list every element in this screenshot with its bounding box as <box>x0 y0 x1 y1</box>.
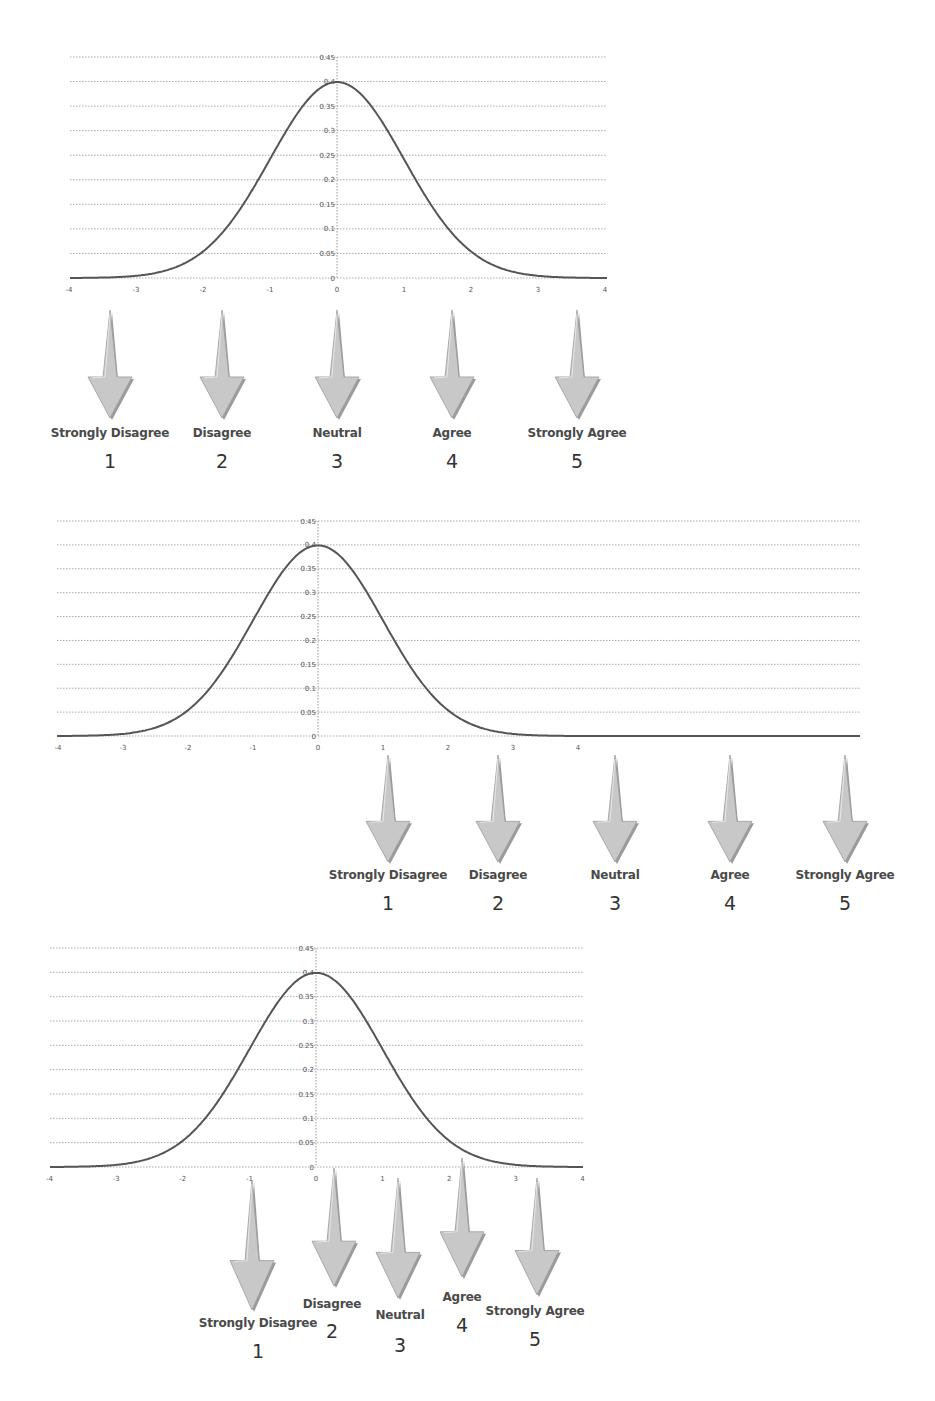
x-tick-label: 2 <box>447 1175 451 1183</box>
x-tick-label: 1 <box>380 1175 384 1183</box>
y-tick-label: 0.05 <box>300 709 316 717</box>
x-tick-label: 2 <box>446 744 450 752</box>
scale-value: 1 <box>252 1340 264 1362</box>
down-arrow-icon <box>476 755 522 864</box>
scale-value: 5 <box>529 1328 541 1350</box>
down-arrow-icon <box>708 755 754 864</box>
y-tick-label: 0.2 <box>305 637 316 645</box>
x-tick-label: 3 <box>514 1175 518 1183</box>
x-tick-label: 1 <box>402 286 406 294</box>
scale-label: Strongly Agree <box>527 426 626 440</box>
x-tick-label: -2 <box>185 744 192 752</box>
y-tick-label: 0.45 <box>298 945 314 953</box>
y-tick-label: 0.2 <box>303 1066 314 1074</box>
x-tick-label: 4 <box>576 744 581 752</box>
down-arrow-icon <box>88 310 134 420</box>
scale-value: 4 <box>724 892 736 914</box>
scale-value: 1 <box>382 892 394 914</box>
x-tick-label: 2 <box>469 286 473 294</box>
down-arrow-icon <box>200 310 246 420</box>
y-tick-label: 0.15 <box>298 1091 314 1099</box>
y-tick-label: 0.25 <box>319 152 335 160</box>
x-tick-label: 0 <box>335 286 339 294</box>
y-tick-label: 0.25 <box>298 1042 314 1050</box>
scale-label: Strongly Disagree <box>51 426 170 440</box>
y-tick-label: 0.25 <box>300 613 316 621</box>
x-tick-label: 3 <box>536 286 540 294</box>
scale-value: 4 <box>446 450 458 472</box>
x-tick-label: -4 <box>66 286 74 294</box>
x-tick-label: -3 <box>133 286 140 294</box>
scale-label: Agree <box>442 1290 481 1304</box>
scale-label: Agree <box>710 868 749 882</box>
scale-label: Strongly Disagree <box>329 868 448 882</box>
y-tick-label: 0.3 <box>303 1018 314 1026</box>
y-tick-label: 0.15 <box>300 661 316 669</box>
scale-label: Strongly Agree <box>795 868 894 882</box>
down-arrow-icon <box>593 755 639 864</box>
down-arrow-icon <box>515 1178 561 1297</box>
y-tick-label: 0.1 <box>303 1115 314 1123</box>
scale-label: Agree <box>432 426 471 440</box>
x-tick-label: -1 <box>267 286 274 294</box>
y-tick-label: 0.35 <box>300 565 316 573</box>
x-tick-label: 1 <box>381 744 385 752</box>
down-arrow-icon <box>555 310 601 420</box>
down-arrow-icon <box>376 1178 422 1300</box>
y-tick-label: 0.1 <box>305 685 316 693</box>
y-tick-label: 0.2 <box>324 176 335 184</box>
x-tick-label: 0 <box>314 1175 318 1183</box>
scale-value: 2 <box>326 1320 338 1342</box>
scale-label: Strongly Agree <box>485 1304 584 1318</box>
scale-value: 3 <box>331 450 343 472</box>
scale-label: Neutral <box>590 868 639 882</box>
scale-label: Neutral <box>312 426 361 440</box>
y-tick-label: 0 <box>310 1164 314 1172</box>
x-tick-label: -4 <box>46 1175 54 1183</box>
down-arrow-icon <box>366 755 412 864</box>
scale-label: Disagree <box>469 868 528 882</box>
scale-label: Neutral <box>375 1308 424 1322</box>
x-tick-label: 3 <box>511 744 515 752</box>
scale-value: 1 <box>104 450 116 472</box>
down-arrow-icon <box>823 755 869 864</box>
x-tick-label: -1 <box>250 744 257 752</box>
down-arrow-icon <box>312 1168 358 1288</box>
y-tick-label: 0 <box>312 733 316 741</box>
y-tick-label: 0.1 <box>324 225 335 233</box>
y-tick-label: 0.15 <box>319 201 335 209</box>
x-tick-label: 4 <box>603 286 608 294</box>
x-tick-label: -3 <box>113 1175 120 1183</box>
charts-canvas: 0.450.40.350.30.250.20.150.10.050-4-3-2-… <box>0 0 935 1401</box>
y-tick-label: 0.05 <box>319 250 335 258</box>
y-tick-label: 0.45 <box>319 54 335 62</box>
y-tick-label: 0.35 <box>319 103 335 111</box>
x-tick-label: -4 <box>55 744 63 752</box>
y-tick-label: 0 <box>331 275 335 283</box>
scale-label: Disagree <box>303 1297 362 1311</box>
scale-value: 3 <box>394 1334 406 1356</box>
x-tick-label: 0 <box>316 744 320 752</box>
scale-value: 5 <box>571 450 583 472</box>
down-arrow-icon <box>315 310 361 420</box>
scale-value: 5 <box>839 892 851 914</box>
x-tick-label: -2 <box>179 1175 186 1183</box>
y-tick-label: 0.05 <box>298 1139 314 1147</box>
scale-label: Disagree <box>193 426 252 440</box>
x-tick-label: -2 <box>200 286 207 294</box>
y-tick-label: 0.3 <box>324 127 335 135</box>
chart-panel-2: 0.450.40.350.30.250.20.150.10.050-4-3-2-… <box>55 518 869 865</box>
x-tick-label: 4 <box>580 1175 585 1183</box>
scale-value: 3 <box>609 892 621 914</box>
x-tick-label: -3 <box>120 744 127 752</box>
down-arrow-icon <box>230 1180 276 1312</box>
scale-label: Strongly Disagree <box>199 1316 318 1330</box>
scale-value: 4 <box>456 1314 468 1336</box>
scale-value: 2 <box>492 892 504 914</box>
chart-panel-3: 0.450.40.350.30.250.20.150.10.050-4-3-2-… <box>46 945 585 1313</box>
y-tick-label: 0.45 <box>300 518 316 526</box>
y-tick-label: 0.3 <box>305 589 316 597</box>
y-tick-label: 0.35 <box>298 993 314 1001</box>
chart-panel-1: 0.450.40.350.30.250.20.150.10.050-4-3-2-… <box>66 54 608 421</box>
scale-value: 2 <box>216 450 228 472</box>
